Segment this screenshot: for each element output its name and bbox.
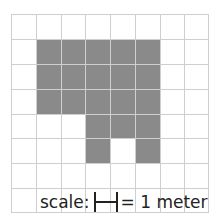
scale-bar-icon [94, 192, 118, 212]
shaded-cell [36, 39, 61, 64]
shaded-cell [110, 89, 135, 114]
shaded-cell [135, 39, 160, 64]
shaded-cell [85, 89, 110, 114]
shaded-cell [36, 64, 61, 89]
shaded-cell [85, 39, 110, 64]
grid-line-horizontal [11, 64, 209, 65]
shaded-cell [135, 89, 160, 114]
scale-legend: scale: = 1 meter [40, 190, 208, 214]
shaded-cell [110, 64, 135, 89]
grid-line-horizontal [11, 39, 209, 40]
shaded-cell [135, 114, 160, 139]
scale-prefix: scale: [40, 192, 90, 212]
grid-line-horizontal [11, 89, 209, 90]
shaded-cell [85, 64, 110, 89]
grid-line-horizontal [11, 163, 209, 164]
grid-line-horizontal [11, 138, 209, 139]
shaded-cell [85, 138, 110, 163]
shaded-cell [110, 114, 135, 139]
area-grid [11, 14, 209, 213]
shaded-cell [36, 89, 61, 114]
grid-line-horizontal [11, 114, 209, 115]
shaded-cell [135, 64, 160, 89]
scale-suffix: = 1 meter [121, 192, 208, 212]
grid-line-horizontal [11, 14, 209, 15]
shaded-cell [135, 138, 160, 163]
shaded-cell [110, 39, 135, 64]
shaded-cell [85, 114, 110, 139]
shaded-cell [61, 89, 86, 114]
shaded-cell [61, 39, 86, 64]
shaded-cell [61, 64, 86, 89]
grid-line-horizontal [11, 188, 209, 189]
